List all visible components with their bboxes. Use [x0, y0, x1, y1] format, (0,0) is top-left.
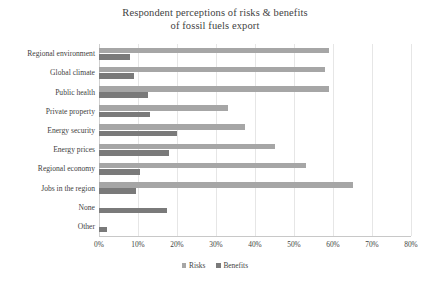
legend-entry-benefits[interactable]: Benefits: [216, 261, 248, 270]
category-label-regional-economy: Regional economy: [0, 164, 95, 173]
legend-label-benefits: Benefits: [223, 261, 248, 270]
legend-label-risks: Risks: [189, 261, 205, 270]
gridline-20: [177, 44, 178, 236]
gridline-50: [294, 44, 295, 236]
category-label-other: Other: [0, 222, 95, 231]
bar-benefits-other: [99, 227, 107, 233]
bar-benefits-private-property: [99, 112, 150, 118]
x-tick-label-40: 40%: [235, 240, 275, 250]
chart-container: Respondent perceptions of risks & benefi…: [0, 0, 430, 285]
chart-title: Respondent perceptions of risks & benefi…: [0, 6, 430, 32]
gridline-40: [255, 44, 256, 236]
bar-risks-global-climate: [99, 67, 325, 73]
bar-risks-private-property: [99, 105, 228, 111]
gridline-60: [333, 44, 334, 236]
category-label-global-climate: Global climate: [0, 68, 95, 77]
x-tick-label-10: 10%: [118, 240, 158, 250]
legend-swatch-benefits-icon: [216, 263, 221, 268]
gridline-30: [216, 44, 217, 236]
bar-risks-regional-economy: [99, 163, 306, 169]
bar-risks-energy-security: [99, 124, 245, 130]
bar-benefits-none: [99, 208, 167, 214]
chart-title-line-1: Respondent perceptions of risks & benefi…: [0, 6, 430, 19]
bar-risks-jobs-in-the-region: [99, 182, 353, 188]
category-label-energy-prices: Energy prices: [0, 145, 95, 154]
gridline-70: [372, 44, 373, 236]
category-label-none: None: [0, 203, 95, 212]
x-tick-label-80: 80%: [391, 240, 430, 250]
x-tick-label-30: 30%: [196, 240, 236, 250]
bar-risks-public-health: [99, 86, 329, 92]
legend-swatch-risks-icon: [182, 263, 187, 268]
bar-benefits-public-health: [99, 92, 148, 98]
category-label-energy-security: Energy security: [0, 126, 95, 135]
bar-benefits-regional-economy: [99, 169, 140, 175]
x-tick-label-70: 70%: [352, 240, 392, 250]
x-tick-label-20: 20%: [157, 240, 197, 250]
bar-benefits-regional-environment: [99, 54, 130, 60]
bar-risks-regional-environment: [99, 48, 329, 54]
bar-risks-energy-prices: [99, 144, 275, 150]
chart-title-line-2: of fossil fuels export: [0, 19, 430, 32]
legend-entry-risks[interactable]: Risks: [182, 261, 205, 270]
bar-benefits-energy-security: [99, 131, 177, 137]
category-label-jobs-in-the-region: Jobs in the region: [0, 184, 95, 193]
bar-benefits-energy-prices: [99, 150, 169, 156]
bar-benefits-jobs-in-the-region: [99, 188, 136, 194]
category-label-regional-environment: Regional environment: [0, 49, 95, 58]
bar-benefits-global-climate: [99, 73, 134, 79]
chart-legend: RisksBenefits: [0, 261, 430, 270]
x-tick-label-50: 50%: [274, 240, 314, 250]
category-label-private-property: Private property: [0, 107, 95, 116]
category-label-public-health: Public health: [0, 88, 95, 97]
x-axis-line: [99, 236, 411, 237]
x-tick-label-60: 60%: [313, 240, 353, 250]
gridline-80: [411, 44, 412, 236]
x-axis-tick-labels: 0%10%20%30%40%50%60%70%80%: [0, 240, 430, 252]
plot-area: [99, 44, 411, 236]
x-tick-label-0: 0%: [79, 240, 119, 250]
category-axis-labels: Regional environmentGlobal climatePublic…: [0, 44, 95, 236]
